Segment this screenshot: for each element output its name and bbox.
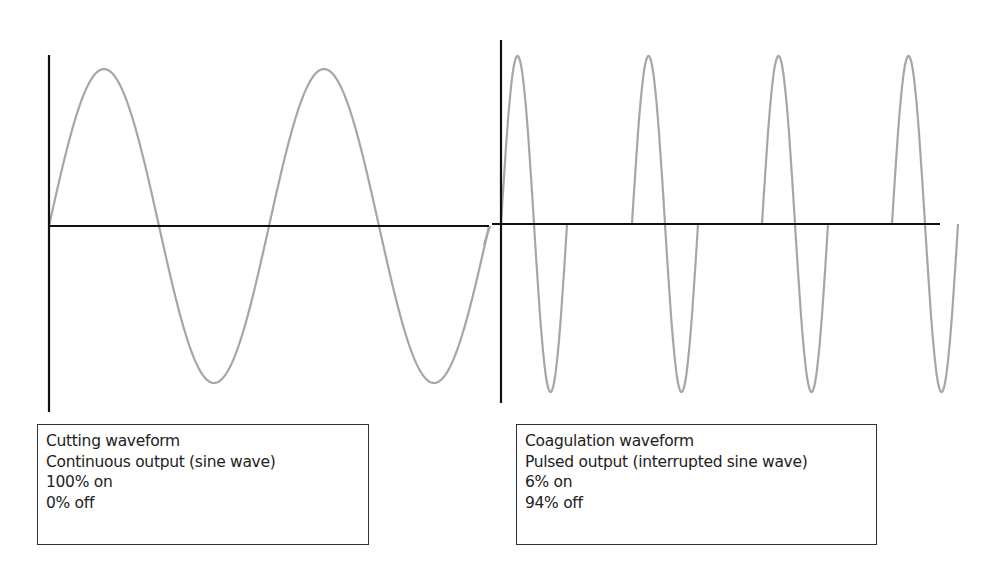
cutting-on-percent: 100% on (46, 472, 360, 493)
coagulation-output-type: Pulsed output (interrupted sine wave) (525, 452, 868, 473)
cutting-off-percent: 0% off (46, 493, 360, 514)
cutting-caption-box: Cutting waveform Continuous output (sine… (37, 424, 369, 545)
coagulation-title: Coagulation waveform (525, 431, 868, 452)
cutting-title: Cutting waveform (46, 431, 360, 452)
coagulation-on-percent: 6% on (525, 472, 868, 493)
coagulation-off-percent: 94% off (525, 493, 868, 514)
cutting-waveform-plot (49, 55, 489, 412)
coagulation-pulse-tail (484, 226, 490, 245)
coagulation-waveform-plot (484, 40, 958, 403)
cutting-output-type: Continuous output (sine wave) (46, 452, 360, 473)
coagulation-caption-box: Coagulation waveform Pulsed output (inte… (516, 424, 877, 545)
